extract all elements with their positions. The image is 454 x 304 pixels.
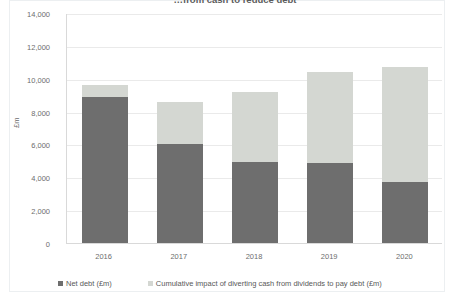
y-axis-tick-label: 8,000 bbox=[0, 109, 50, 118]
y-axis-tick-label: 12,000 bbox=[0, 43, 50, 52]
chart-legend: Net debt (£m) Cumulative impact of diver… bbox=[20, 276, 440, 290]
plot-area: 14,00012,00010,0008,0006,0004,0002,0000 bbox=[66, 14, 442, 244]
x-axis-tick-label: 2018 bbox=[224, 252, 284, 261]
y-axis-tick-label: 4,000 bbox=[0, 174, 50, 183]
legend-label: Cumulative impact of diverting cash from… bbox=[156, 279, 382, 288]
legend-label: Net debt (£m) bbox=[66, 279, 112, 288]
y-axis-tick-label: 0 bbox=[0, 240, 50, 249]
gridline bbox=[67, 47, 442, 48]
x-axis-tick-label: 2020 bbox=[374, 252, 434, 261]
y-axis-tick-label: 6,000 bbox=[0, 141, 50, 150]
bar-segment-net-debt[interactable] bbox=[157, 144, 203, 243]
legend-item-cumulative-impact[interactable]: Cumulative impact of diverting cash from… bbox=[148, 279, 382, 288]
chart-title: …from cash to reduce debt bbox=[40, 0, 430, 5]
bar-group[interactable] bbox=[232, 92, 278, 243]
gridline bbox=[67, 14, 442, 15]
x-axis-tick-label: 2017 bbox=[149, 252, 209, 261]
bar-group[interactable] bbox=[307, 72, 353, 243]
bar-segment-cumulative-impact[interactable] bbox=[82, 85, 128, 97]
bar-segment-net-debt[interactable] bbox=[82, 97, 128, 243]
bar-group[interactable] bbox=[157, 102, 203, 243]
bar-group[interactable] bbox=[382, 67, 428, 243]
legend-item-net-debt[interactable]: Net debt (£m) bbox=[58, 279, 112, 288]
bar-segment-cumulative-impact[interactable] bbox=[232, 92, 278, 162]
legend-swatch-icon bbox=[148, 281, 153, 286]
bar-segment-cumulative-impact[interactable] bbox=[307, 72, 353, 162]
gridline bbox=[67, 244, 442, 245]
x-axis-tick-label: 2016 bbox=[74, 252, 134, 261]
legend-swatch-icon bbox=[58, 281, 63, 286]
bar-segment-net-debt[interactable] bbox=[382, 182, 428, 243]
bar-segment-net-debt[interactable] bbox=[232, 162, 278, 243]
bar-group[interactable] bbox=[82, 85, 128, 243]
bar-segment-cumulative-impact[interactable] bbox=[157, 102, 203, 145]
x-axis-tick-label: 2019 bbox=[299, 252, 359, 261]
y-axis-tick-label: 2,000 bbox=[0, 207, 50, 216]
chart-container: …from cash to reduce debt £m 14,00012,00… bbox=[0, 0, 454, 304]
y-axis-tick-label: 10,000 bbox=[0, 76, 50, 85]
bar-segment-net-debt[interactable] bbox=[307, 163, 353, 244]
y-axis-title: £m bbox=[12, 118, 21, 128]
y-axis-tick-label: 14,000 bbox=[0, 10, 50, 19]
bar-segment-cumulative-impact[interactable] bbox=[382, 67, 428, 182]
